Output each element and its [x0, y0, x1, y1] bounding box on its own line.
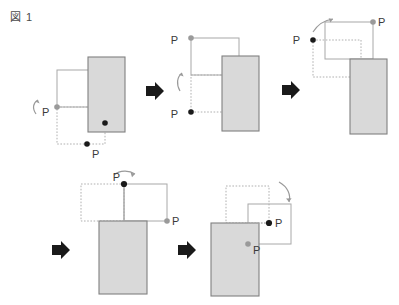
- step-2-pivot-bottom-marker: [188, 109, 194, 115]
- step-5-group: P P: [211, 182, 292, 296]
- step-4-pivot-top-marker: [121, 181, 127, 187]
- step-5-pivot-label-lower: P: [253, 244, 260, 256]
- step-3-pivot-label-left: P: [293, 34, 300, 46]
- step-4-pivot-label-top: P: [113, 171, 120, 183]
- step-5-pivot-label-inner: P: [275, 217, 282, 229]
- step-2-rotation-arrow: [178, 73, 182, 91]
- step-4-group: P P: [81, 171, 179, 294]
- step-2-pivot-label-bottom: P: [171, 108, 178, 120]
- step-5-shaded-panel: [211, 223, 259, 296]
- step-1-pivot-label-left: P: [42, 106, 49, 118]
- step-1-pivot-left-marker: [54, 104, 60, 110]
- step-2-group: P P: [171, 34, 259, 131]
- rotation-sequence-diagram: P P P P: [0, 0, 399, 305]
- step-4-pivot-label-right: P: [172, 215, 179, 227]
- step-3-group: P P: [293, 16, 387, 134]
- step-1-pivot-dotted-marker: [84, 141, 90, 147]
- step-1-group: P P: [34, 57, 125, 160]
- step-3-pivot-left-marker: [310, 37, 316, 43]
- step-arrow-1-to-2: [146, 82, 164, 100]
- step-5-pivot-inner-marker: [266, 220, 272, 226]
- step-5-rotation-arrowhead: [286, 198, 292, 202]
- step-4-outline-rect: [124, 184, 167, 221]
- figure-container: 図 1 P P: [0, 0, 399, 305]
- step-2-pivot-top-marker: [188, 35, 194, 41]
- step-arrow-2-to-3: [282, 81, 300, 99]
- step-4-shaded-panel: [99, 221, 147, 294]
- step-2-shaded-panel: [222, 56, 259, 131]
- step-3-shaded-panel: [350, 59, 387, 134]
- step-4-pivot-right-marker: [164, 218, 170, 224]
- step-4-dotted-rect: [81, 184, 124, 221]
- step-arrow-4-to-5: [178, 241, 196, 259]
- step-3-pivot-right-marker: [370, 19, 376, 25]
- step-5-pivot-lower-marker: [245, 241, 251, 247]
- step-arrow-3-to-4: [52, 241, 70, 259]
- step-1-rotation-arrowhead: [35, 100, 39, 103]
- step-1-pivot-label-bottom: P: [92, 148, 99, 160]
- step-3-pivot-label-right: P: [378, 16, 385, 28]
- step-2-pivot-label-top: P: [171, 34, 178, 46]
- step-1-pivot-bottom-marker: [102, 120, 108, 126]
